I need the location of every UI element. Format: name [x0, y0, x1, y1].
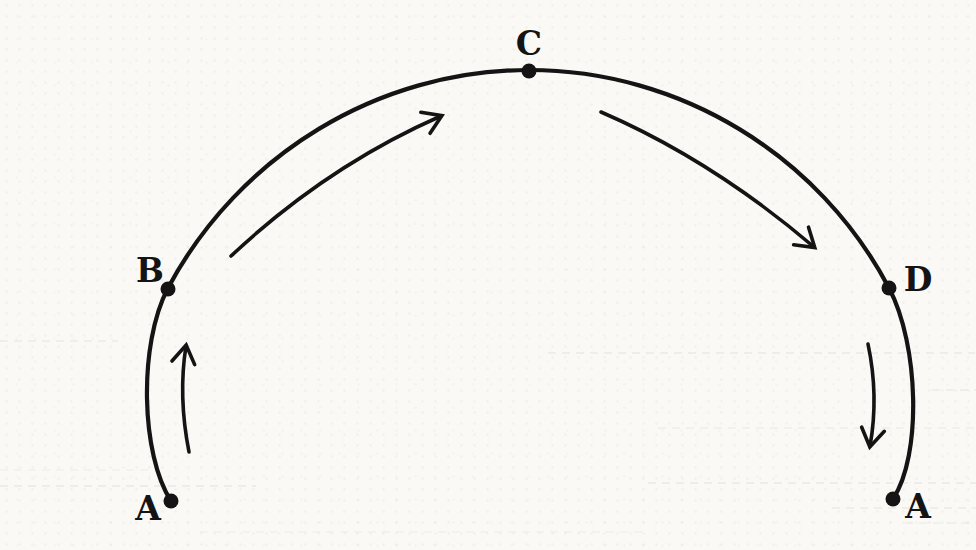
point-a-left-dot	[164, 494, 179, 509]
point-labels: A B C D A	[134, 24, 932, 528]
arrow-b-to-c	[231, 116, 441, 256]
arrow-a-to-b	[183, 346, 189, 452]
direction-arrows	[183, 112, 874, 452]
arrow-d-to-a	[868, 344, 874, 446]
point-b-label: B	[136, 251, 164, 290]
arc-path	[147, 70, 913, 501]
arc-motion-diagram: A B C D A	[0, 0, 976, 550]
arrow-c-to-d	[601, 112, 814, 247]
path-points	[161, 64, 901, 509]
point-d-dot	[882, 281, 897, 296]
scanned-page: A B C D A	[0, 0, 976, 550]
point-a-right-label: A	[904, 487, 931, 526]
point-d-label: D	[904, 260, 933, 299]
point-c-label: C	[516, 24, 542, 63]
point-a-right-dot	[886, 492, 901, 507]
point-c-dot	[522, 64, 537, 79]
point-a-left-label: A	[134, 489, 161, 528]
